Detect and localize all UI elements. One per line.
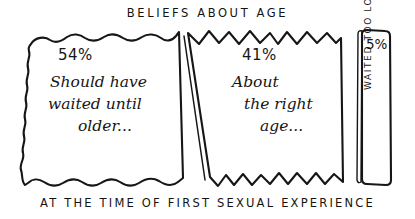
middle-panel-tear-line <box>184 36 205 180</box>
page-caption: AT THE TIME OF FIRST SEXUAL EXPERIENCE <box>0 196 415 210</box>
panel-middle: 41% About the right age... <box>236 46 356 137</box>
panel-left: 54% Should have waited until older... <box>50 46 175 137</box>
infographic-root: BELIEFS ABOUT AGE 54% Should have waited… <box>0 0 415 219</box>
right-label-vertical: WAITED TOO LONG... <box>363 0 379 90</box>
middle-percent-value: 41% <box>242 46 356 64</box>
left-label-line-3: older... <box>78 115 175 137</box>
middle-label-line-2: the right <box>244 93 356 115</box>
left-label-line-1: Should have <box>50 71 175 93</box>
right-panel-inner-edge <box>357 31 362 183</box>
middle-label-line-1: About <box>232 71 356 93</box>
left-percent-value: 54% <box>58 46 175 64</box>
page-title: BELIEFS ABOUT AGE <box>0 6 415 20</box>
middle-label-line-3: age... <box>260 115 356 137</box>
left-label-line-2: waited until <box>48 93 175 115</box>
